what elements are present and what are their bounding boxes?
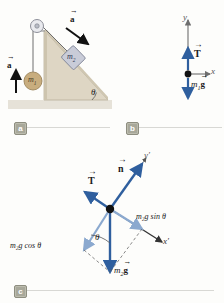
panel-badge-b: b <box>126 122 139 135</box>
mass-m1-label: m1 <box>28 75 37 86</box>
y-prime-label: y′ <box>144 150 150 160</box>
normal-force-label: →n <box>118 163 124 174</box>
panel-b-drawing <box>112 0 224 140</box>
tension-vector-c <box>85 192 110 209</box>
weight-component-cos-label: m₂g cos θ <box>10 241 41 250</box>
panel-badge-c: c <box>14 285 27 298</box>
panel-a-incline-system: →a →a m1 m2 θ <box>0 0 112 140</box>
tension-label-b: →T <box>194 48 201 59</box>
weight-component-sin-label: m₂g sin θ <box>136 212 166 221</box>
weight-label-b: m1→g <box>191 79 205 91</box>
divider-rule-a <box>14 127 110 128</box>
weight-label-c: m2→g <box>114 265 128 277</box>
normal-force-vector <box>110 164 142 209</box>
panel-b-free-body-m1: y x →T m1→g <box>112 0 224 140</box>
panel-c-drawing <box>0 150 224 303</box>
particle-dot <box>185 71 192 78</box>
pulley-axle <box>35 24 39 28</box>
x-prime-label: x′ <box>163 236 169 246</box>
mass-m2-label: m2 <box>67 52 76 63</box>
y-axis-label-b: y <box>183 12 187 22</box>
angle-theta-label-a: θ <box>91 87 95 97</box>
divider-rule-b <box>126 127 222 128</box>
angle-theta-label-c: θ <box>95 232 99 242</box>
weight-component-cos-vector <box>84 209 110 250</box>
acceleration-label-right: →a <box>70 14 75 24</box>
panel-badge-a: a <box>14 122 27 135</box>
x-axis-label-b: x <box>211 66 215 76</box>
ground-surface <box>8 100 112 109</box>
divider-rule-c <box>14 290 214 291</box>
panel-a-drawing <box>0 0 112 140</box>
acceleration-label-left: →a <box>7 60 12 70</box>
tension-label-c: →T <box>88 175 95 186</box>
panel-c-free-body-m2: y′ x′ →n →T m2→g m₂g sin θ m₂g cos θ θ <box>0 150 224 303</box>
acceleration-arrow-right <box>66 28 88 44</box>
incline-vertical-face <box>44 30 47 100</box>
dashed-construction-cos <box>84 250 110 272</box>
particle-dot-c <box>106 205 114 213</box>
